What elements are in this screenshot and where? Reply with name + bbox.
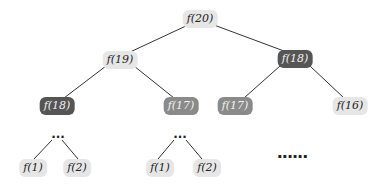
node-f18-left: f(18) — [40, 97, 75, 115]
edge-f18-f16 — [310, 66, 344, 98]
edge-f19-f17 — [134, 66, 174, 98]
node-f20: f(20) — [183, 10, 218, 28]
edge-f20-f19 — [128, 25, 188, 53]
node-f1-left: f(1) — [19, 159, 47, 177]
ellipsis-right-subtree: ...... — [277, 143, 307, 162]
node-f17-middle: f(17) — [164, 97, 199, 115]
edge-dots-f1-left — [34, 140, 52, 159]
edge-f19-f18 — [64, 66, 106, 98]
node-f2-left: f(2) — [63, 159, 91, 177]
edge-dots-f2-mid — [186, 140, 202, 159]
recursion-tree-diagram: f(20) f(19) f(18) f(18) f(17) f(17) f(16… — [0, 0, 388, 188]
node-f1-middle: f(1) — [146, 159, 174, 177]
edge-dots-f1-mid — [158, 140, 174, 159]
ellipsis-left: ... — [51, 127, 65, 141]
node-f19: f(19) — [103, 51, 138, 69]
edge-f18-f17 — [244, 66, 280, 98]
node-f2-middle: f(2) — [193, 159, 221, 177]
ellipsis-middle: ... — [173, 127, 187, 141]
node-f18-right: f(18) — [278, 50, 313, 68]
node-f17-right: f(17) — [218, 97, 253, 115]
edge-dots-f2-left — [62, 140, 78, 159]
node-f16: f(16) — [333, 97, 368, 115]
edge-f20-f18 — [214, 25, 284, 51]
